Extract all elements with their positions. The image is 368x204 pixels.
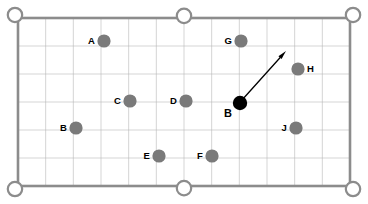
ball-g-label: G xyxy=(225,36,232,46)
ball-h-label: H xyxy=(307,64,314,74)
ball-group xyxy=(69,34,304,162)
pocket-top-middle[interactable] xyxy=(177,9,191,23)
ball-b-lower-left-label: B xyxy=(60,123,67,133)
ball-c[interactable] xyxy=(123,94,136,107)
pocket-bottom-middle[interactable] xyxy=(177,181,191,195)
cue-ball-b[interactable] xyxy=(233,96,247,110)
diagram-canvas: AGHCDBJEFB xyxy=(0,0,368,204)
ball-j[interactable] xyxy=(289,121,302,134)
ball-a[interactable] xyxy=(97,34,110,47)
ball-c-label: C xyxy=(114,96,121,106)
pocket-bottom-right[interactable] xyxy=(346,182,360,196)
ball-e-label: E xyxy=(144,151,150,161)
cue-ball-b-label: B xyxy=(224,108,232,119)
ball-f-label: F xyxy=(197,151,203,161)
shot-direction-arrow xyxy=(242,51,286,100)
pocket-top-right[interactable] xyxy=(346,8,360,22)
ball-h[interactable] xyxy=(291,62,304,75)
ball-f[interactable] xyxy=(205,149,218,162)
ball-a-label: A xyxy=(88,36,95,46)
pocket-top-left[interactable] xyxy=(8,8,22,22)
ball-e[interactable] xyxy=(152,149,165,162)
ball-j-label: J xyxy=(282,123,287,133)
shot-arrow-shaft xyxy=(242,58,280,100)
ball-g[interactable] xyxy=(234,34,247,47)
ball-b-lower-left[interactable] xyxy=(69,121,82,134)
ball-d[interactable] xyxy=(179,94,192,107)
billiard-table-graphic xyxy=(0,0,368,204)
pocket-bottom-left[interactable] xyxy=(8,182,22,196)
ball-d-label: D xyxy=(170,96,177,106)
